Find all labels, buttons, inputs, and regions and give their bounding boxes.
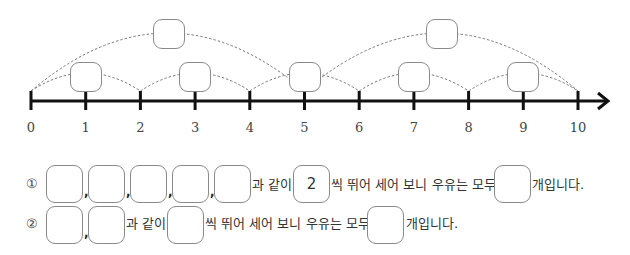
q1-blank-1[interactable]: [46, 165, 83, 203]
tick-label: 7: [410, 120, 418, 135]
q2-text-like: 과 같이: [126, 216, 166, 232]
large-jump-box[interactable]: [153, 19, 185, 49]
q1-total-blank[interactable]: [494, 165, 531, 203]
small-jump-box[interactable]: [179, 62, 211, 92]
question-2-marker: ②: [26, 216, 38, 231]
q1-step-box: 2: [293, 165, 330, 203]
tick-label: 10: [570, 120, 587, 135]
tick-label: 8: [464, 120, 472, 135]
small-jump-box[interactable]: [289, 62, 321, 92]
q2-step-blank[interactable]: [167, 206, 204, 244]
q2-text-middle: 씩 뛰어 세어 보니 우유는 모두: [205, 216, 370, 232]
tick-label: 1: [82, 120, 90, 135]
tick-label: 2: [136, 120, 144, 135]
q1-blank-5[interactable]: [214, 165, 251, 203]
tick-label: 6: [355, 120, 363, 135]
small-jump-box[interactable]: [70, 62, 102, 92]
tick-label: 3: [191, 120, 199, 135]
small-jump-box[interactable]: [398, 62, 430, 92]
q2-text-end: 개입니다.: [406, 216, 458, 232]
q1-text-middle: 씩 뛰어 세어 보니 우유는 모두: [331, 177, 496, 193]
tick-label: 9: [519, 120, 527, 135]
small-jump-box[interactable]: [507, 62, 539, 92]
tick-label: 5: [300, 120, 308, 135]
tick-label: 0: [27, 120, 35, 135]
q1-blank-3[interactable]: [130, 165, 167, 203]
number-line-ticks: 012345678910: [27, 91, 586, 135]
q1-text-like: 과 같이: [252, 177, 292, 193]
q1-blank-2[interactable]: [88, 165, 125, 203]
q2-total-blank[interactable]: [367, 206, 404, 244]
tick-label: 4: [246, 120, 254, 135]
q1-text-end: 개입니다.: [532, 177, 584, 193]
q1-blank-4[interactable]: [172, 165, 209, 203]
q2-blank-2[interactable]: [88, 206, 125, 244]
question-1-marker: ①: [26, 176, 38, 191]
large-jump-box[interactable]: [426, 19, 458, 49]
q2-blank-1[interactable]: [46, 206, 83, 244]
